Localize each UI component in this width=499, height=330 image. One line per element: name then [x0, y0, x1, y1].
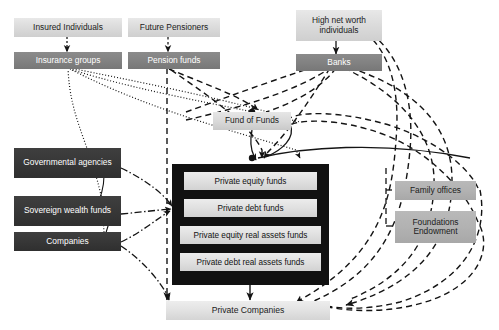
node-insured-individuals[interactable]: Insured Individuals: [14, 18, 122, 37]
node-label: Private Companies: [212, 306, 285, 316]
fund-label: Private debt funds: [218, 204, 284, 213]
node-high-net-worth-individuals[interactable]: High net worth individuals: [296, 10, 382, 41]
fund-box-private-debt-funds[interactable]: Private debt funds: [184, 199, 317, 217]
node-sovereign-wealth-funds[interactable]: Sovereign wealth funds: [14, 196, 121, 226]
node-label: Banks: [327, 58, 350, 67]
node-fund-of-funds[interactable]: Fund of Funds: [213, 112, 291, 130]
node-future-pensioners[interactable]: Future Pensioners: [128, 18, 220, 37]
node-banks[interactable]: Banks: [296, 54, 382, 71]
fund-label: Private debt real assets funds: [197, 258, 305, 267]
fund-label: Private equity funds: [215, 177, 287, 186]
edge-family-offices-to-pc: [314, 190, 482, 308]
fund-box-private-equity-real-assets-funds[interactable]: Private equity real assets funds: [180, 226, 321, 244]
diagram-canvas: Insured Individuals Insurance groups Fut…: [0, 0, 499, 330]
node-label: Future Pensioners: [140, 23, 208, 32]
junction-dot-funds-top: [249, 155, 255, 161]
node-label: Pension funds: [147, 56, 200, 65]
fund-label: Private equity real assets funds: [194, 231, 308, 240]
node-foundations-endowment[interactable]: Foundations Endowment: [395, 211, 476, 243]
node-label: Sovereign wealth funds: [24, 206, 111, 215]
edge-banks-to-fof: [266, 68, 336, 112]
node-label: Insurance groups: [36, 56, 101, 65]
node-family-offices[interactable]: Family offices: [395, 181, 476, 200]
fund-box-private-debt-real-assets-funds[interactable]: Private debt real assets funds: [180, 253, 321, 271]
node-label: High net worth individuals: [296, 16, 382, 35]
node-label: Companies: [46, 237, 88, 246]
node-private-companies[interactable]: Private Companies: [166, 301, 330, 320]
node-companies[interactable]: Companies: [14, 232, 121, 251]
fund-box-private-equity-funds[interactable]: Private equity funds: [184, 172, 317, 190]
node-governmental-agencies[interactable]: Governmental agencies: [14, 148, 121, 178]
node-label: Governmental agencies: [23, 158, 111, 167]
node-label: Insured Individuals: [33, 23, 103, 32]
node-label: Family offices: [410, 186, 461, 195]
node-label: Foundations Endowment: [395, 218, 476, 237]
edge-gov-to-funds: [121, 168, 172, 206]
edge-insurance-to-fof: [70, 68, 268, 112]
edge-swf-to-funds: [121, 209, 171, 214]
node-insurance-groups[interactable]: Insurance groups: [14, 52, 122, 69]
edge-funds-right-solid: [258, 147, 470, 158]
edge-companies-to-funds: [121, 211, 170, 242]
node-pension-funds[interactable]: Pension funds: [128, 52, 220, 69]
node-label: Fund of Funds: [225, 116, 279, 125]
edge-companies-to-pc: [121, 246, 169, 300]
